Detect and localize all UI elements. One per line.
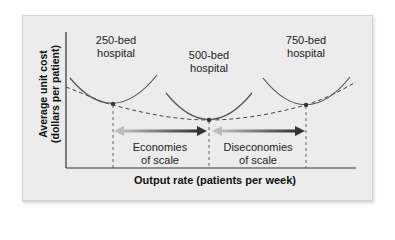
- diseconomies-arrow: [212, 126, 305, 136]
- label-500-line2: hospital: [179, 62, 239, 75]
- label-750-line1: 750-bed: [276, 34, 336, 47]
- diseconomies-line1: Diseconomies: [218, 141, 298, 154]
- short-run-curve-500-bed: [166, 93, 252, 120]
- economies-arrow: [114, 126, 207, 136]
- diseconomies-of-scale-label: Diseconomies of scale: [218, 141, 298, 167]
- label-250-bed: 250-bed hospital: [86, 34, 146, 60]
- label-750-bed: 750-bed hospital: [276, 34, 336, 60]
- economies-of-scale-label: Economies of scale: [125, 141, 195, 167]
- short-run-curve-750-bed: [263, 77, 350, 105]
- label-750-line2: hospital: [276, 47, 336, 60]
- economies-line2: of scale: [125, 154, 195, 167]
- diseconomies-line2: of scale: [218, 154, 298, 167]
- label-500-line1: 500-bed: [179, 49, 239, 62]
- y-axis-label-line1: Average unit cost: [37, 34, 49, 154]
- short-run-curve-250-bed: [70, 75, 157, 103]
- label-250-line2: hospital: [86, 47, 146, 60]
- economies-line1: Economies: [125, 141, 195, 154]
- label-250-line1: 250-bed: [86, 34, 146, 47]
- long-run-average-cost-curve: [66, 82, 356, 120]
- x-axis-label: Output rate (patients per week): [130, 174, 300, 186]
- y-axis-label: Average unit cost (dollars per patient): [37, 34, 63, 154]
- y-axis-label-line2: (dollars per patient): [49, 34, 61, 154]
- label-500-bed: 500-bed hospital: [179, 49, 239, 75]
